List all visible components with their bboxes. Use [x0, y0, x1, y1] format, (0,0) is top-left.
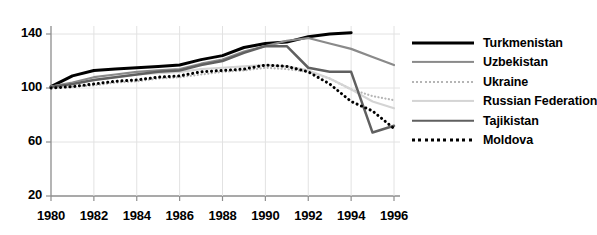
legend-label: Turkmenistan — [483, 36, 563, 50]
legend-line-swatch-icon — [412, 56, 474, 68]
legend-line-swatch-icon — [412, 134, 474, 146]
plot-canvas — [0, 0, 410, 215]
legend-label: Ukraine — [483, 75, 528, 89]
x-tick-label: 1994 — [328, 208, 374, 223]
legend-item-ukraine[interactable]: Ukraine — [412, 72, 579, 92]
legend-item-tajikistan[interactable]: Tajikistan — [412, 111, 579, 131]
chart-legend: TurkmenistanUzbekistanUkraineRussian Fed… — [412, 33, 579, 150]
x-tick-label: 1990 — [242, 208, 288, 223]
x-tick-label: 1984 — [114, 208, 160, 223]
y-tick-label: 20 — [2, 187, 42, 202]
legend-item-russian-federation[interactable]: Russian Federation — [412, 92, 579, 112]
x-tick-label: 1992 — [285, 208, 331, 223]
x-tick-label: 1980 — [28, 208, 74, 223]
plot-area — [0, 0, 410, 215]
legend-line-swatch-icon — [412, 115, 474, 127]
x-tick-label: 1988 — [200, 208, 246, 223]
x-tick-label: 1986 — [157, 208, 203, 223]
legend-label: Tajikistan — [483, 114, 539, 128]
legend-label: Moldova — [483, 133, 533, 147]
legend-label: Russian Federation — [483, 94, 597, 108]
legend-item-turkmenistan[interactable]: Turkmenistan — [412, 33, 579, 53]
legend-item-uzbekistan[interactable]: Uzbekistan — [412, 53, 579, 73]
x-tick-label: 1982 — [71, 208, 117, 223]
y-tick-label: 100 — [2, 79, 42, 94]
legend-line-swatch-icon — [412, 76, 474, 88]
legend-line-swatch-icon — [412, 95, 474, 107]
y-tick-label: 140 — [2, 25, 42, 40]
legend-item-moldova[interactable]: Moldova — [412, 131, 579, 151]
legend-line-swatch-icon — [412, 37, 474, 49]
x-tick-label: 1996 — [371, 208, 417, 223]
legend-label: Uzbekistan — [483, 55, 548, 69]
y-tick-label: 60 — [2, 133, 42, 148]
